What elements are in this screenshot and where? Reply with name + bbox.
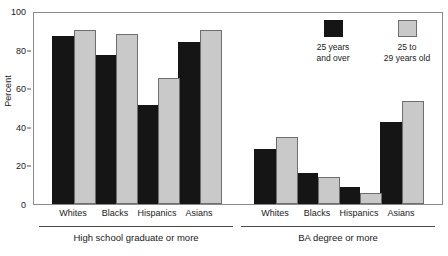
y-axis-ticks: 020406080100 bbox=[0, 12, 31, 205]
bar bbox=[254, 149, 276, 204]
category-label: Hispanics bbox=[137, 208, 176, 218]
y-tick-label: 0 bbox=[21, 200, 26, 210]
category-label: Whites bbox=[261, 208, 289, 218]
legend-entry-25-to-29: 25 to 29 years old bbox=[374, 20, 440, 63]
bar bbox=[276, 137, 298, 204]
bar bbox=[136, 105, 158, 204]
bar bbox=[158, 78, 180, 204]
y-tick-label: 100 bbox=[11, 7, 26, 17]
category-label: Blacks bbox=[304, 208, 331, 218]
group-rule bbox=[39, 226, 233, 227]
group-rules bbox=[33, 226, 443, 228]
category-label: Whites bbox=[59, 208, 87, 218]
y-tick-label: 40 bbox=[16, 123, 26, 133]
legend-swatch-dark-icon bbox=[324, 20, 343, 37]
category-label: Asians bbox=[387, 208, 414, 218]
bar bbox=[178, 42, 200, 204]
bar bbox=[338, 187, 360, 204]
group-rule bbox=[241, 226, 435, 227]
group-title: High school graduate or more bbox=[73, 232, 198, 243]
y-tick-mark bbox=[27, 89, 31, 90]
y-tick-mark bbox=[27, 50, 31, 51]
y-tick-label: 80 bbox=[16, 46, 26, 56]
bar-chart: Percent 020406080100 25 years and over 2… bbox=[0, 0, 448, 256]
bar bbox=[380, 122, 402, 204]
bar bbox=[318, 177, 340, 204]
group-title: BA degree or more bbox=[298, 232, 378, 243]
y-tick-mark bbox=[27, 166, 31, 167]
legend-entry-25-and-over: 25 years and over bbox=[300, 20, 366, 63]
category-label: Hispanics bbox=[339, 208, 378, 218]
bar bbox=[296, 173, 318, 204]
bar bbox=[402, 101, 424, 204]
y-tick-label: 60 bbox=[16, 84, 26, 94]
y-tick-label: 20 bbox=[16, 161, 26, 171]
category-label: Asians bbox=[185, 208, 212, 218]
bar bbox=[74, 30, 96, 204]
group-titles: High school graduate or moreBA degree or… bbox=[33, 232, 443, 246]
category-labels: WhitesBlacksHispanicsAsiansWhitesBlacksH… bbox=[33, 208, 443, 222]
chart-legend: 25 years and over 25 to 29 years old bbox=[300, 20, 440, 72]
bar bbox=[200, 30, 222, 204]
bar bbox=[116, 34, 138, 204]
category-label: Blacks bbox=[102, 208, 129, 218]
legend-label-25-to-29: 25 to 29 years old bbox=[374, 42, 440, 63]
bar bbox=[360, 193, 382, 204]
bar bbox=[94, 55, 116, 204]
y-tick-mark bbox=[27, 127, 31, 128]
legend-label-25-and-over: 25 years and over bbox=[300, 42, 366, 63]
bar bbox=[52, 36, 74, 204]
legend-swatch-light-icon bbox=[398, 20, 417, 37]
